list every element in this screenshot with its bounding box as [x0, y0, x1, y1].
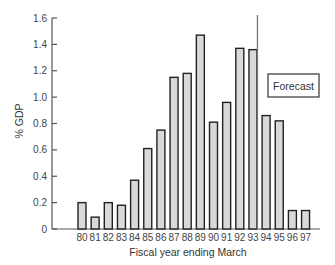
- x-tick-label: 90: [208, 232, 220, 243]
- bar-83: [117, 205, 125, 229]
- bar-90: [210, 122, 218, 229]
- bar-96: [288, 211, 296, 229]
- bar-87: [170, 77, 178, 229]
- y-tick-label: 0.4: [33, 171, 47, 182]
- y-tick-label: 0.2: [33, 197, 47, 208]
- y-tick-label: 0.6: [33, 144, 47, 155]
- bar-89: [196, 35, 204, 229]
- y-tick-label: 1.2: [33, 65, 47, 76]
- y-tick-label: 1.6: [33, 13, 47, 24]
- bar-94: [262, 116, 270, 229]
- y-axis-ticks: 00.20.40.60.81.01.21.41.6: [33, 13, 57, 235]
- x-axis-label: Fiscal year ending March: [129, 246, 246, 258]
- x-tick-label: 82: [103, 232, 115, 243]
- x-axis-tick-labels: 808182838485868788899091929394959697: [76, 232, 311, 243]
- bar-85: [144, 149, 152, 229]
- x-tick-label: 81: [90, 232, 102, 243]
- x-tick-label: 84: [129, 232, 141, 243]
- forecast-label: Forecast: [273, 80, 314, 92]
- x-tick-label: 85: [142, 232, 154, 243]
- bar-80: [78, 203, 86, 229]
- bar-93: [249, 50, 257, 229]
- x-tick-label: 96: [287, 232, 299, 243]
- x-tick-label: 88: [182, 232, 194, 243]
- x-tick-label: 91: [221, 232, 233, 243]
- x-tick-label: 94: [261, 232, 273, 243]
- x-tick-label: 80: [76, 232, 88, 243]
- bar-97: [302, 211, 310, 229]
- x-tick-label: 89: [195, 232, 207, 243]
- x-tick-label: 95: [274, 232, 286, 243]
- bar-81: [91, 217, 99, 229]
- x-tick-label: 93: [247, 232, 259, 243]
- y-tick-label: 0.8: [33, 118, 47, 129]
- x-tick-label: 83: [116, 232, 128, 243]
- x-tick-label: 86: [155, 232, 167, 243]
- y-tick-label: 0: [41, 224, 47, 235]
- bar-95: [275, 121, 283, 229]
- bar-86: [157, 130, 165, 229]
- x-tick-label: 92: [234, 232, 246, 243]
- bar-84: [131, 180, 139, 229]
- y-axis-label: % GDP: [13, 103, 25, 138]
- bar-82: [104, 203, 112, 229]
- bar-chart: 00.20.40.60.81.01.21.41.6 80818283848586…: [0, 0, 335, 265]
- y-tick-label: 1.4: [33, 39, 47, 50]
- bar-92: [236, 48, 244, 229]
- bar-88: [183, 73, 191, 229]
- x-tick-label: 97: [300, 232, 312, 243]
- bars: [78, 35, 310, 229]
- bar-91: [223, 102, 231, 229]
- y-tick-label: 1.0: [33, 92, 47, 103]
- x-tick-label: 87: [168, 232, 180, 243]
